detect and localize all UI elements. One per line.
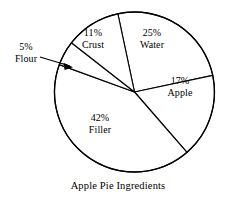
slice-percent-flour: 5% xyxy=(2,41,50,53)
pie-chart-svg xyxy=(0,0,236,202)
slice-label-water: 25% Water xyxy=(125,27,179,50)
slice-name-apple: Apple xyxy=(155,87,205,99)
slice-name-flour: Flour xyxy=(2,53,50,65)
slice-label-apple: 17% Apple xyxy=(155,75,205,98)
chart-caption: Apple Pie Ingredients xyxy=(0,180,236,191)
slice-percent-filler: 42% xyxy=(75,112,125,124)
slice-name-filler: Filler xyxy=(75,124,125,136)
slice-percent-crust: 11% xyxy=(68,27,118,39)
slice-label-flour: 5% Flour xyxy=(2,41,50,64)
slice-percent-water: 25% xyxy=(125,27,179,39)
pie-chart-figure: 25% Water 17% Apple 42% Filler 5% Flour … xyxy=(0,0,236,202)
slice-label-filler: 42% Filler xyxy=(75,112,125,135)
slice-name-water: Water xyxy=(125,39,179,51)
slice-percent-apple: 17% xyxy=(155,75,205,87)
slice-label-crust: 11% Crust xyxy=(68,27,118,50)
slice-name-crust: Crust xyxy=(68,39,118,51)
